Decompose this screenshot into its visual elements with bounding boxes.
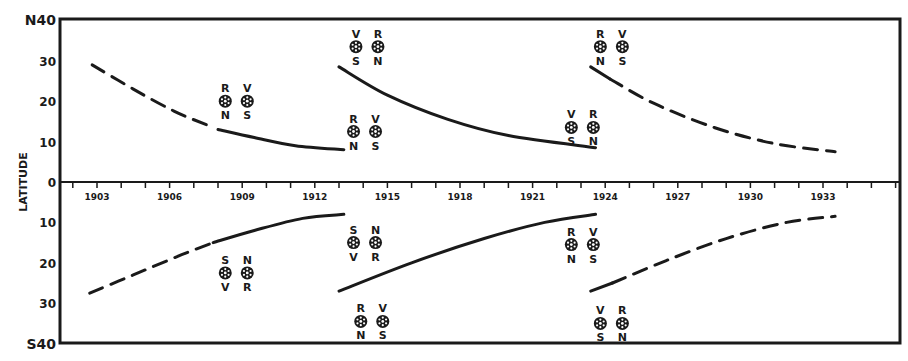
sunspot-pair: VSRN [594, 304, 629, 344]
x-tick-label: 1930 [738, 192, 763, 202]
latitude-curves [90, 65, 835, 293]
polarity-label-bottom: N [356, 329, 365, 342]
x-tick-label: 1921 [520, 192, 545, 202]
south-cycle-3-solid [591, 283, 613, 291]
y-tick-label: 10 [39, 136, 56, 150]
polarity-label-top: R [221, 82, 230, 95]
sunspot-pair: RNVS [354, 302, 389, 342]
sunspot-pair: VSRN [349, 28, 384, 68]
y-tick-label: 20 [39, 95, 56, 109]
x-tick-label: 1933 [810, 192, 835, 202]
polarity-label-bottom: S [567, 135, 575, 148]
y-tick-label: 10 [39, 216, 56, 230]
sunspot-icon [616, 40, 629, 53]
polarity-label-top: R [567, 226, 576, 239]
y-tick-label: 20 [39, 257, 56, 271]
polarity-label-top: V [371, 113, 380, 126]
sunspot-icon [241, 266, 254, 279]
sunspot-pair: RNVS [565, 226, 600, 266]
polarity-label-bottom: V [349, 251, 358, 264]
sunspot-icon [354, 315, 367, 328]
x-tick-label: 1924 [593, 192, 618, 202]
polarity-label-bottom: N [221, 109, 230, 122]
polarity-label-bottom: N [567, 253, 576, 266]
polarity-label-bottom: S [589, 253, 597, 266]
sunspot-icon [349, 40, 362, 53]
y-tick-label: 0 [48, 176, 56, 190]
sunspot-icon [565, 238, 578, 251]
polarity-label-bottom: N [349, 140, 358, 153]
sunspot-pair: SVNR [219, 254, 254, 294]
polarity-label-top: N [371, 224, 380, 237]
x-tick-label: 1915 [375, 192, 400, 202]
x-tick-label: 1912 [302, 192, 327, 202]
x-tick-label: 1927 [665, 192, 690, 202]
sunspot-pair: RNVS [594, 28, 629, 68]
polarity-label-top: R [357, 302, 366, 315]
polarity-label-top: V [352, 28, 361, 41]
polarity-label-bottom: N [373, 55, 382, 68]
polarity-label-bottom: S [352, 55, 360, 68]
polarity-label-top: V [596, 304, 605, 317]
sunspot-icon [219, 266, 232, 279]
sunspot-icon [587, 238, 600, 251]
polarity-label-bottom: S [618, 55, 626, 68]
polarity-label-top: R [596, 28, 605, 41]
y-tick-label: N40 [25, 12, 56, 28]
sunspot-icon [371, 40, 384, 53]
polarity-label-bottom: R [243, 281, 252, 294]
north-cycle-3-solid [591, 67, 610, 79]
polarity-label-top: S [350, 224, 358, 237]
south-cycle-1-dashed [90, 243, 213, 294]
polarity-label-bottom: S [243, 109, 251, 122]
polarity-label-bottom: S [379, 329, 387, 342]
polarity-label-top: V [243, 82, 252, 95]
sunspot-polarity-annotations: RNVSRNVSVSRNVSRNRNVSSVNRSVNRRNVSRNVSVSRN [219, 28, 629, 345]
polarity-label-top: N [243, 254, 252, 267]
polarity-label-top: R [589, 108, 598, 121]
polarity-label-top: S [221, 254, 229, 267]
polarity-label-top: R [349, 113, 358, 126]
north-cycle-1-solid [218, 129, 344, 149]
y-tick-label: 30 [39, 297, 56, 311]
sunspot-icon [565, 121, 578, 134]
x-tick-label: 1906 [157, 192, 182, 202]
sunspot-pair: RNVS [347, 113, 382, 153]
polarity-label-top: V [589, 226, 598, 239]
north-cycle-3-dashed [610, 79, 835, 152]
x-tick-label: 1903 [84, 192, 109, 202]
sunspot-icon [347, 236, 360, 249]
sunspot-latitude-chart: N403020100102030S40 19031906190919121915… [0, 0, 908, 361]
x-axis: 1903190619091912191519181921192419271930… [73, 182, 896, 202]
y-tick-label: 30 [39, 55, 56, 69]
sunspot-icon [376, 315, 389, 328]
polarity-label-bottom: V [221, 281, 230, 294]
sunspot-icon [594, 317, 607, 330]
y-axis-title: LATITUDE [17, 152, 30, 211]
polarity-label-bottom: N [589, 135, 598, 148]
polarity-label-bottom: S [372, 140, 380, 153]
sunspot-pair: RNVS [219, 82, 254, 122]
sunspot-icon [347, 125, 360, 138]
polarity-label-bottom: N [618, 331, 627, 344]
polarity-label-bottom: S [596, 331, 604, 344]
sunspot-icon [219, 95, 232, 108]
sunspot-icon [594, 40, 607, 53]
polarity-label-top: R [374, 28, 383, 41]
polarity-label-top: V [567, 108, 576, 121]
sunspot-icon [587, 121, 600, 134]
x-tick-label: 1909 [230, 192, 255, 202]
sunspot-pair: SVNR [347, 224, 382, 264]
y-tick-label: S40 [26, 336, 56, 352]
north-cycle-1-dashed [92, 65, 208, 126]
x-tick-label: 1918 [447, 192, 472, 202]
sunspot-icon [369, 236, 382, 249]
sunspot-icon [369, 125, 382, 138]
south-cycle-3-dashed [612, 216, 835, 283]
polarity-label-top: V [379, 302, 388, 315]
polarity-label-bottom: R [371, 251, 380, 264]
polarity-label-top: V [618, 28, 627, 41]
sunspot-pair: VSRN [565, 108, 600, 148]
sunspot-icon [616, 317, 629, 330]
south-cycle-1-solid [213, 214, 344, 242]
